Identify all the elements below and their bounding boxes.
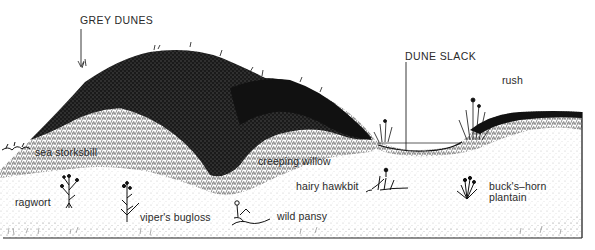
label-bucks-horn-line2: plantain: [489, 191, 527, 203]
label-dune-slack: DUNE SLACK: [405, 51, 476, 62]
label-grey-dunes: GREY DUNES: [80, 15, 153, 26]
label-ragwort: ragwort: [15, 197, 51, 208]
label-vipers-bugloss: viper's bugloss: [140, 212, 211, 223]
label-rush: rush: [502, 75, 523, 86]
label-bucks-horn-plantain: buck's–horn plantain: [489, 181, 546, 203]
dune-diagram: GREY DUNES DUNE SLACK rush sea storksbil…: [0, 0, 595, 250]
label-wild-pansy: wild pansy: [277, 211, 327, 222]
label-sea-storksbill: sea storksbill: [35, 147, 97, 158]
label-hairy-hawkbit: hairy hawkbit: [296, 181, 359, 192]
label-creeping-willow: creeping willow: [258, 156, 331, 167]
